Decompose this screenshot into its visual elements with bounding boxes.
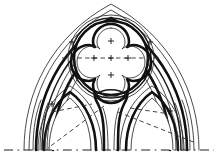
gothic-tracery-drawing [0,0,218,163]
tracery-figure [0,0,218,163]
